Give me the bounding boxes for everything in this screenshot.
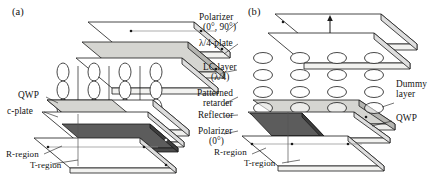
figure-container: (a) (b) Polarizer (0°, 90°) λ/4-plate LC… bbox=[0, 0, 438, 177]
label-patterned-retarder-line2: retarder bbox=[203, 98, 233, 109]
label-quarter-wave-plate: λ/4-plate bbox=[199, 38, 233, 49]
label-b-dummy-line2: layer bbox=[396, 89, 415, 100]
label-patterned-retarder-line1: Patterned bbox=[197, 88, 233, 99]
label-lc-layer-line2: (λ/4) bbox=[211, 72, 229, 83]
label-polarizer-top-line1: Polarizer bbox=[199, 12, 233, 23]
label-a-qwp: QWP bbox=[18, 90, 39, 101]
label-b-qwp: QWP bbox=[396, 113, 417, 124]
label-polarizer-bottom-line2: (0°) bbox=[209, 136, 224, 147]
label-a-r-region: R-region bbox=[6, 149, 39, 160]
label-lc-layer-line1: LC layer bbox=[203, 62, 237, 73]
label-b-r-region: R-region bbox=[214, 147, 247, 158]
label-reflector: Reflector bbox=[198, 110, 234, 121]
panel-b-tag: (b) bbox=[248, 7, 261, 18]
label-a-c-plate: c-plate bbox=[7, 106, 33, 117]
label-a-t-region: T-region bbox=[30, 160, 61, 171]
panel-b-stack bbox=[242, 14, 417, 171]
label-b-dummy-line1: Dummy bbox=[396, 79, 427, 90]
label-polarizer-top-line2: (0°, 90°) bbox=[203, 22, 236, 33]
panel-a-tag: (a) bbox=[12, 7, 24, 18]
label-b-t-region: T-region bbox=[244, 158, 275, 169]
label-polarizer-bottom-line1: Polarizer bbox=[198, 126, 232, 137]
